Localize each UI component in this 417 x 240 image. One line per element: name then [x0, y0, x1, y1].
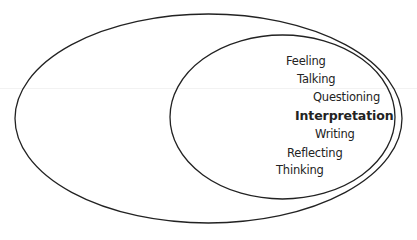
label-writing: Writing — [315, 129, 355, 141]
label-feeling: Feeling — [286, 56, 326, 68]
label-talking: Talking — [297, 74, 335, 86]
label-reflecting: Reflecting — [287, 148, 342, 160]
label-interpretation: Interpretation — [295, 110, 394, 123]
label-thinking: Thinking — [276, 165, 324, 177]
label-questioning: Questioning — [313, 92, 380, 104]
